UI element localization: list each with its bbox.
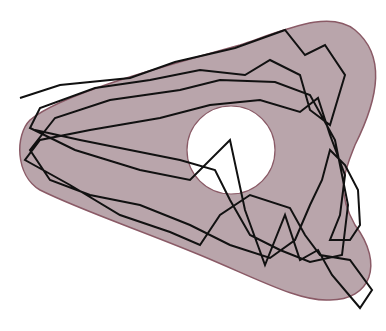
figure-canvas [0, 0, 386, 331]
circular-hole [187, 106, 275, 194]
